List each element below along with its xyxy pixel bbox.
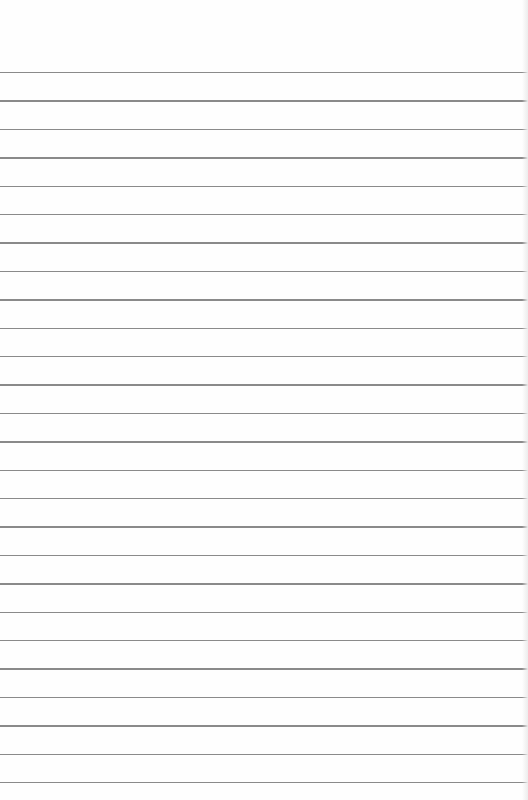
paper-edge-shadow <box>522 0 528 800</box>
ruled-line <box>0 413 528 414</box>
ruled-line <box>0 555 528 556</box>
ruled-line <box>0 526 528 527</box>
ruled-line <box>0 129 528 130</box>
ruled-line <box>0 754 528 755</box>
ruled-line <box>0 214 528 215</box>
ruled-line <box>0 186 528 187</box>
ruled-line <box>0 612 528 613</box>
ruled-line <box>0 356 528 357</box>
ruled-line <box>0 668 528 669</box>
ruled-line <box>0 470 528 471</box>
ruled-line <box>0 242 528 243</box>
ruled-line <box>0 583 528 584</box>
ruled-line <box>0 328 528 329</box>
ruled-line <box>0 441 528 442</box>
lined-paper-page <box>0 0 528 800</box>
ruled-line <box>0 697 528 698</box>
ruled-line <box>0 100 528 101</box>
ruled-line <box>0 498 528 499</box>
ruled-line <box>0 384 528 385</box>
ruled-line <box>0 271 528 272</box>
ruled-line <box>0 299 528 300</box>
ruled-line <box>0 640 528 641</box>
ruled-line <box>0 72 528 73</box>
ruled-line <box>0 782 528 783</box>
ruled-line <box>0 157 528 158</box>
ruled-line <box>0 725 528 726</box>
